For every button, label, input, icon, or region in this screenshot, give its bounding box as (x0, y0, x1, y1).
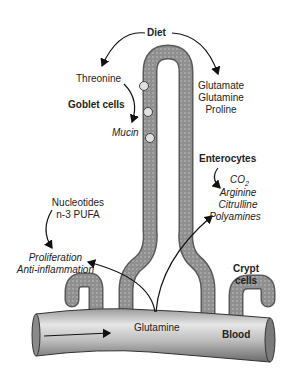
blood-label: Blood (222, 329, 250, 341)
cells-label: cells (224, 275, 268, 287)
gut-glutamine-diagram: Diet Threonine Goblet cells Mucin Glutam… (0, 0, 286, 382)
goblet-cells-label: Goblet cells (68, 99, 125, 111)
glutamate-label: Glutamate (196, 80, 246, 92)
threonine-label: Threonine (76, 73, 121, 85)
nucleotides-label: Nucleotides (48, 197, 108, 209)
arginine-label: Arginine (208, 187, 268, 199)
mucin-label: Mucin (112, 127, 139, 139)
glutamine-blood-label: Glutamine (134, 322, 180, 334)
proline-label: Proline (196, 104, 246, 116)
anti-inflammation-label: Anti-inflammation (4, 264, 94, 276)
polyamines-label: Polyamines (200, 211, 270, 223)
proliferation-label: Proliferation (10, 252, 82, 264)
citrulline-label: Citrulline (208, 199, 268, 211)
glutamine-diet-label: Glutamine (196, 92, 246, 104)
diet-label: Diet (147, 27, 166, 39)
crypt-label: Crypt (224, 263, 268, 275)
enterocytes-label: Enterocytes (199, 153, 256, 165)
pufa-label: n-3 PUFA (48, 209, 108, 221)
